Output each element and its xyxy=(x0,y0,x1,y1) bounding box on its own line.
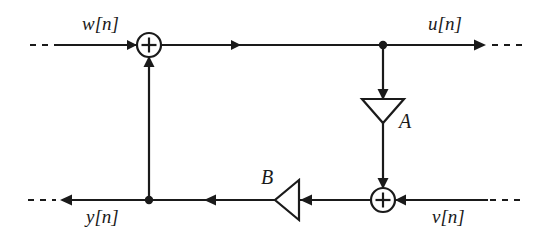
signal-flow-diagram: w[n] u[n] y[n] v[n] A B xyxy=(0,0,547,242)
label-gain-b: B xyxy=(261,167,273,187)
feedback-arrowhead xyxy=(144,56,155,67)
gain-b-triangle xyxy=(275,180,299,220)
label-v-input: v[n] xyxy=(432,207,465,226)
bottom-midline-arrowhead xyxy=(204,195,216,206)
label-y-output: y[n] xyxy=(86,207,119,226)
v-input-arrowhead xyxy=(395,195,406,206)
label-w-input: w[n] xyxy=(82,14,119,33)
label-gain-a: A xyxy=(399,111,411,131)
top-midline-arrowhead xyxy=(231,40,241,50)
y-output-arrowhead xyxy=(60,195,72,206)
gain-a-triangle xyxy=(362,99,404,123)
gain-b-input-arrowhead xyxy=(300,195,312,206)
w-input-arrowhead xyxy=(127,40,137,50)
diagram-canvas xyxy=(0,0,547,242)
u-output-arrowhead xyxy=(474,40,486,51)
label-u-output: u[n] xyxy=(428,14,462,33)
